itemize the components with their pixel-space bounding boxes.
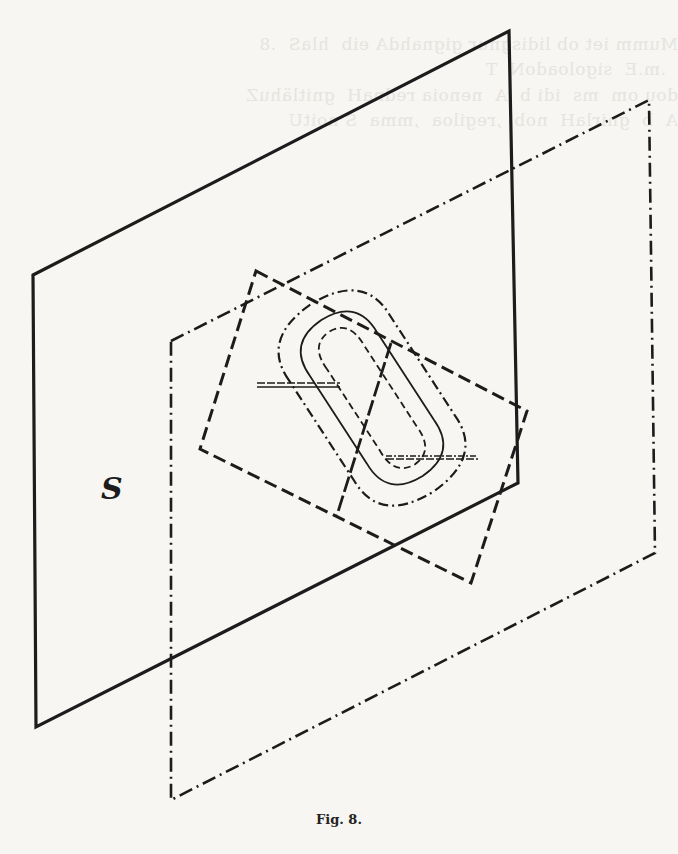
upper-tick (257, 383, 340, 387)
plane-s (33, 31, 518, 727)
plane-label-s: S (101, 471, 123, 506)
middle-contour (288, 298, 457, 498)
figure-caption: Fig. 8. (0, 812, 678, 827)
figure-diagram (0, 0, 678, 854)
plane-dash-dot (171, 100, 655, 800)
outer-contour (261, 271, 484, 524)
inner-contour (310, 320, 433, 477)
